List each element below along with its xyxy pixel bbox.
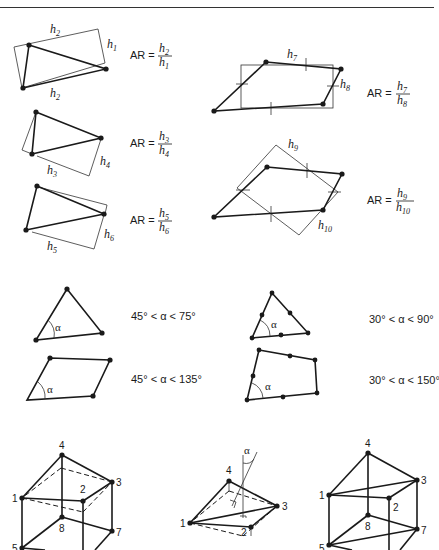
angle-range-quadratic-quad: 30° < α < 150° [369, 374, 439, 386]
aspect-ratio-triangle-2: h3 h4 [22, 109, 110, 179]
svg-text:2: 2 [393, 502, 399, 513]
svg-text:5: 5 [12, 543, 18, 550]
svg-text:h1: h1 [159, 55, 169, 71]
svg-text:h6: h6 [159, 220, 169, 236]
formula-ar-1: AR = h2 h1 [130, 41, 172, 71]
label-h6: h6 [104, 227, 114, 243]
aspect-ratio-triangle-3: h5 h6 [23, 183, 114, 255]
aspect-ratio-quad-2: h9 h10 [211, 137, 344, 235]
svg-text:1: 1 [12, 493, 18, 504]
svg-text:AR =: AR = [130, 214, 155, 226]
formula-ar-4: AR = h7 h8 [367, 79, 410, 109]
svg-text:1: 1 [180, 518, 186, 529]
aspect-ratio-triangle-1: h2 h1 h2 [14, 22, 117, 102]
svg-text:3: 3 [116, 477, 122, 488]
svg-text:h10: h10 [396, 200, 410, 216]
label-h9: h9 [288, 137, 298, 153]
angle-range-quadratic-triangle: 30° < α < 90° [369, 313, 434, 325]
angle-quadratic-triangle: α [250, 291, 311, 341]
label-h10: h10 [318, 218, 332, 234]
svg-text:α: α [47, 383, 53, 395]
svg-text:2: 2 [80, 484, 86, 495]
svg-text:α: α [265, 380, 271, 392]
svg-text:h8: h8 [397, 93, 407, 109]
svg-text:AR =: AR = [367, 194, 392, 206]
svg-text:8: 8 [365, 521, 371, 532]
solid-warped-face: α 4 3 1 2 [180, 444, 288, 538]
formula-ar-2: AR = h3 h4 [130, 129, 172, 159]
diagram-canvas: .thick { stroke: #1a1a1a; stroke-width: … [0, 0, 439, 550]
svg-text:4: 4 [226, 465, 232, 476]
svg-text:7: 7 [116, 527, 122, 538]
label-h1: h1 [107, 37, 117, 53]
angle-range-linear-triangle: 45° < α < 75° [131, 310, 196, 322]
svg-text:3: 3 [282, 501, 288, 512]
angle-linear-triangle: α [33, 286, 104, 342]
svg-text:AR =: AR = [130, 49, 155, 61]
label-h2-bottom: h2 [50, 86, 60, 102]
label-h2-top: h2 [50, 22, 60, 38]
svg-text:α: α [244, 444, 250, 456]
svg-text:8: 8 [59, 523, 65, 534]
label-h5: h5 [47, 239, 57, 255]
svg-text:4: 4 [365, 438, 371, 449]
solid-wedge-split: 4 1 2 3 8 7 5 [319, 438, 427, 550]
svg-text:AR =: AR = [130, 137, 155, 149]
angle-quadratic-quad: α [245, 348, 320, 403]
svg-text:h4: h4 [159, 143, 169, 159]
solid-hexahedron: 4 1 2 3 8 7 5 [12, 440, 122, 550]
svg-text:7: 7 [421, 525, 427, 536]
svg-text:1: 1 [319, 490, 325, 501]
label-h7: h7 [287, 47, 298, 63]
svg-text:5: 5 [319, 543, 325, 550]
aspect-ratio-quad-1: h7 h8 [211, 47, 350, 115]
formula-ar-5: AR = h9 h10 [367, 186, 414, 216]
svg-text:α: α [55, 321, 61, 333]
label-h8: h8 [340, 77, 350, 93]
svg-text:2: 2 [241, 527, 247, 538]
angle-linear-quad: α [27, 355, 113, 400]
label-h4: h4 [100, 154, 110, 170]
formula-ar-3: AR = h5 h6 [130, 206, 172, 236]
svg-text:AR =: AR = [367, 87, 392, 99]
svg-text:α: α [271, 318, 277, 330]
svg-text:3: 3 [421, 475, 427, 486]
label-h3: h3 [47, 163, 57, 179]
svg-text:4: 4 [59, 440, 65, 451]
angle-range-linear-quad: 45° < α < 135° [131, 373, 202, 385]
